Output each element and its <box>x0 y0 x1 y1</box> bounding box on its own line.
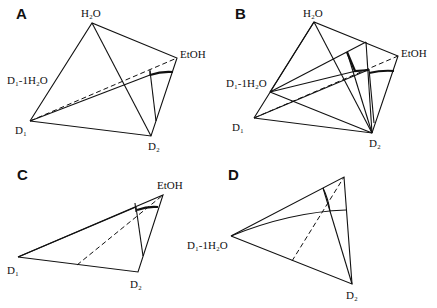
boundary-curve-upper-b <box>347 52 369 71</box>
boundary-curve-d <box>231 210 346 236</box>
dashed-line-c <box>77 195 163 265</box>
label-etoh-b: EtOH <box>401 47 427 59</box>
label-d1-1h2o-b: D₁-1H₂O <box>226 77 267 89</box>
label-etoh-c: EtOH <box>157 179 183 191</box>
label-d1-1h2o-a: D₁-1H₂O <box>7 74 48 86</box>
tetrahedron-outline-a <box>30 23 177 136</box>
edge-d1h2o-h2o-b <box>270 22 314 92</box>
line-boundary-d2-a <box>150 71 156 121</box>
label-h2o-b: H₂O <box>303 7 323 19</box>
tick-c <box>135 203 136 212</box>
line-d1-boundary-a <box>30 75 150 121</box>
label-d2-d: D₂ <box>346 289 358 301</box>
triangle-outline-c <box>18 195 163 272</box>
triangle-outline-d <box>231 177 352 284</box>
label-d2-c: D₂ <box>130 278 142 290</box>
line-d1-boundary-b <box>254 70 368 118</box>
label-d2-b: D₂ <box>369 137 381 149</box>
boundary-curve-lower-b <box>369 71 394 73</box>
dashed-line-d <box>292 177 344 261</box>
panel-label-b: B <box>235 5 246 22</box>
edge-h2o-d2-a <box>92 23 151 136</box>
label-d1-b: D₁ <box>232 121 244 133</box>
edge-h2o-d2-b <box>314 22 372 133</box>
line-top-d2-d <box>323 188 352 284</box>
phase-diagram-figure: A H₂O EtOH D₁-1H₂O D₁ D₂ B H₂O EtOH D₁-1… <box>0 0 437 308</box>
panel-label-a: A <box>16 5 27 22</box>
line-d1h2o-boundary-b <box>270 71 356 92</box>
panel-a: A H₂O EtOH D₁-1H₂O D₁ D₂ <box>7 5 206 152</box>
label-d1-1h2o-d: D₁-1H₂O <box>187 239 228 251</box>
panel-b: B H₂O EtOH D₁-1H₂O D₁ D₂ <box>226 5 427 149</box>
label-d1-a: D₁ <box>15 124 27 136</box>
panel-d: D D₁-1H₂O D₂ <box>187 166 358 301</box>
label-d1-c: D₁ <box>7 264 19 276</box>
label-etoh-a: EtOH <box>180 48 206 60</box>
boundary-curve-c <box>137 207 158 210</box>
label-h2o-a: H₂O <box>81 7 101 19</box>
panel-label-c: C <box>17 166 28 183</box>
panel-label-d: D <box>228 166 239 183</box>
panel-c: C EtOH D₁ D₂ <box>7 166 183 290</box>
boundary-curve-a <box>150 72 173 75</box>
label-d2-a: D₂ <box>148 140 160 152</box>
tetrahedron-outline-b <box>254 22 398 133</box>
